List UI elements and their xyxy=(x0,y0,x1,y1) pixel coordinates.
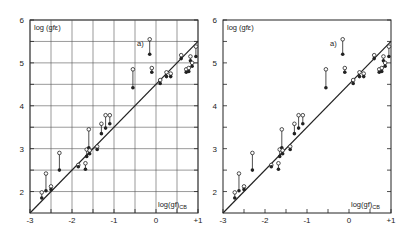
filled-point xyxy=(343,71,347,75)
filled-point xyxy=(251,168,255,172)
open-point xyxy=(179,53,183,57)
open-point xyxy=(148,38,152,42)
x-tick-label: 0 xyxy=(154,216,159,225)
y-tick-label: 2 xyxy=(213,188,218,197)
filled-point xyxy=(58,168,62,172)
y-axis-label: log (gfε) xyxy=(34,23,61,32)
y-tick-label: 3 xyxy=(213,145,218,154)
y-tick-label: 5 xyxy=(213,59,218,68)
x-tick-label: -2 xyxy=(261,216,269,225)
y-tick-label: 5 xyxy=(20,59,25,68)
filled-point xyxy=(169,75,173,79)
open-point xyxy=(293,122,297,126)
open-point xyxy=(58,151,62,155)
open-point xyxy=(87,128,91,132)
y-tick-label: 3 xyxy=(20,145,25,154)
open-point xyxy=(84,161,88,165)
y-axis-label: log (gfε) xyxy=(227,23,254,32)
open-point xyxy=(131,68,135,72)
filled-point xyxy=(187,70,191,74)
filled-point xyxy=(351,82,355,86)
filled-point xyxy=(242,188,246,192)
open-point xyxy=(187,66,191,70)
x-tick-label: -3 xyxy=(219,216,227,225)
open-point xyxy=(233,191,237,195)
chart-right: -3-2-10+123456log (gfε)log(gf)CBa) xyxy=(193,0,399,234)
plot-frame xyxy=(223,20,391,213)
filled-point xyxy=(288,148,292,152)
x-tick-label: 0 xyxy=(347,216,352,225)
filled-point xyxy=(270,165,274,169)
filled-point xyxy=(324,86,328,90)
filled-point xyxy=(179,57,183,61)
x-tick-label: -1 xyxy=(110,216,118,225)
open-point xyxy=(44,172,48,176)
open-point xyxy=(358,71,362,75)
open-point xyxy=(165,71,169,75)
reference-line xyxy=(223,41,391,213)
open-point xyxy=(88,149,92,153)
filled-point xyxy=(49,188,53,192)
open-point xyxy=(280,128,284,132)
filled-point xyxy=(293,132,297,136)
open-point xyxy=(104,113,108,117)
filled-point xyxy=(165,75,169,79)
y-tick-label: 6 xyxy=(20,16,25,25)
open-point xyxy=(189,55,193,59)
filled-point xyxy=(104,126,108,130)
y-tick-label: 6 xyxy=(213,16,218,25)
open-point xyxy=(324,68,328,72)
filled-point xyxy=(100,132,104,136)
chart-left: -3-2-10+123456log (gfε)log(gf)CBa) xyxy=(0,0,206,234)
open-point xyxy=(297,113,301,117)
x-tick-label: -3 xyxy=(26,216,34,225)
filled-point xyxy=(297,126,301,130)
x-axis-label-subscript: CB xyxy=(179,204,187,210)
x-tick-label: -2 xyxy=(68,216,76,225)
x-axis-label: log(gf)CB xyxy=(351,200,380,210)
filled-point xyxy=(277,167,281,171)
filled-point xyxy=(383,65,387,69)
open-point xyxy=(351,78,355,82)
filled-point xyxy=(85,155,89,159)
open-point xyxy=(383,61,387,65)
filled-point xyxy=(362,75,366,79)
open-point xyxy=(237,172,241,176)
filled-point xyxy=(44,189,48,193)
filled-point xyxy=(281,152,285,156)
y-tick-label: 4 xyxy=(213,102,218,111)
open-point xyxy=(277,161,281,165)
filled-point xyxy=(150,71,154,75)
open-point xyxy=(100,122,104,126)
open-point xyxy=(343,66,347,70)
x-axis-label: log(gf)CB xyxy=(158,200,187,210)
filled-point xyxy=(84,167,88,171)
open-point xyxy=(251,151,255,155)
filled-point xyxy=(77,165,81,169)
y-tick-label: 2 xyxy=(20,188,25,197)
open-point xyxy=(382,55,386,59)
filled-point xyxy=(237,189,241,193)
y-tick-label: 4 xyxy=(20,102,25,111)
open-point xyxy=(158,78,162,82)
filled-point xyxy=(372,57,376,61)
annotation-a: a) xyxy=(330,39,337,48)
filled-point xyxy=(301,122,305,126)
filled-point xyxy=(158,82,162,86)
filled-point xyxy=(40,196,44,200)
x-tick-label: -1 xyxy=(303,216,311,225)
open-point xyxy=(387,45,391,49)
filled-point xyxy=(148,53,152,57)
filled-point xyxy=(233,196,237,200)
filled-point xyxy=(131,86,135,90)
filled-point xyxy=(108,122,112,126)
filled-point xyxy=(341,53,345,57)
open-point xyxy=(40,191,44,195)
filled-point xyxy=(380,70,384,74)
filled-point xyxy=(387,55,391,59)
open-point xyxy=(372,53,376,57)
filled-point xyxy=(358,75,362,79)
filled-point xyxy=(95,148,99,152)
open-point xyxy=(150,66,154,70)
x-tick-label: +1 xyxy=(386,216,396,225)
